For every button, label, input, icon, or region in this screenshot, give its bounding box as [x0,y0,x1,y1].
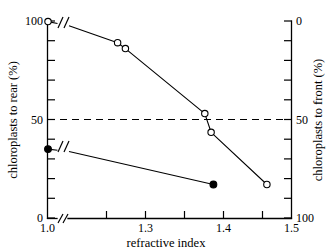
series-break-slash-mid-2 [64,141,69,152]
y2-label-0: 0 [296,14,302,28]
data-point-open-5 [208,129,214,135]
x-label-1-3: 1.3 [138,221,153,235]
series-filled-polyline [69,152,213,185]
data-point-open-1 [45,18,51,24]
data-point-open-2 [114,40,120,46]
tick-labels: 100 50 0 0 50 100 1.0 1.3 1.4 1.5 [25,14,314,235]
data-point-open-6 [264,181,270,187]
data-point-filled-2 [210,181,217,188]
x-axis-break-slash-1 [58,214,63,223]
x-label-1-5: 1.5 [284,221,299,235]
series-break-slash-mid-1 [58,141,63,152]
y-label-50: 50 [31,113,43,127]
series-open-polyline [69,26,267,185]
series-open-circle [45,18,270,187]
chart-plot-area: 100 50 0 0 50 100 1.0 1.3 1.4 1.5 refrac… [0,0,332,251]
y-axis-right-title: chloroplasts to front (%) [311,59,325,182]
x-axis-break-slash-2 [63,214,68,223]
series-filled-circle [45,146,217,188]
data-point-open-4 [202,110,208,116]
series-break-slash-top-2 [64,17,69,28]
y-axis-left-title: chloroplasts to rear (%) [6,61,20,179]
chart-figure: 100 50 0 0 50 100 1.0 1.3 1.4 1.5 refrac… [0,0,332,251]
data-point-open-3 [122,45,128,51]
series-break-slash-top-1 [58,17,63,28]
x-label-1-0: 1.0 [40,221,55,235]
y-label-100: 100 [25,14,43,28]
x-axis-title: refractive index [127,236,207,250]
y2-label-50: 50 [296,113,308,127]
x-axis-ticks [107,211,263,219]
data-point-filled-1 [45,146,52,153]
x-label-1-4: 1.4 [216,221,231,235]
